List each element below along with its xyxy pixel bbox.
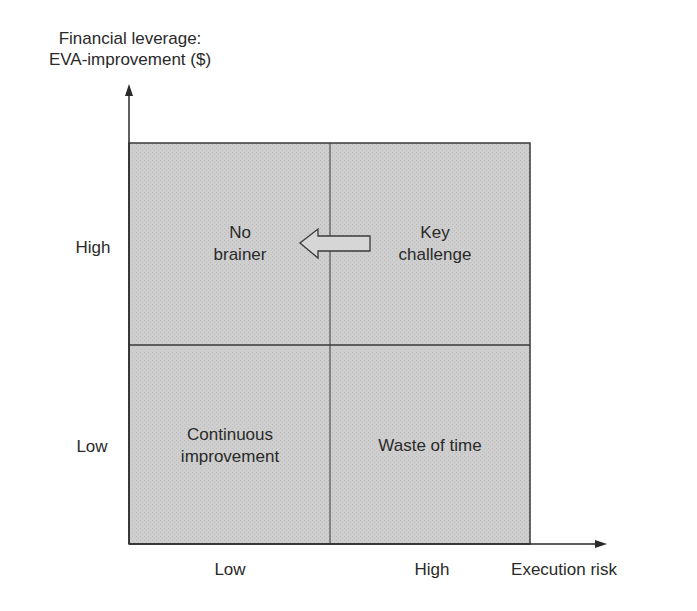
y-axis-title: Financial leverage: EVA-improvement ($) (25, 28, 235, 70)
quadrant-no-brainer: No brainer (200, 222, 280, 266)
y-axis-arrowhead-icon (125, 84, 133, 96)
x-tick-low: Low (205, 559, 255, 580)
quadrant-key-challenge: Key challenge (380, 222, 490, 266)
x-axis-title: Execution risk (464, 559, 664, 580)
quadrant-waste-of-time: Waste of time (360, 435, 500, 457)
x-axis-arrowhead-icon (595, 540, 607, 548)
quadrant-continuous-improvement: Continuous improvement (165, 424, 295, 468)
quadrant-key-challenge-line1: Key (380, 222, 490, 244)
y-axis-title-line2: EVA-improvement ($) (25, 49, 235, 70)
y-tick-low: Low (70, 436, 114, 457)
y-tick-high: High (68, 237, 118, 258)
quadrant-key-challenge-line2: challenge (380, 244, 490, 266)
x-tick-high: High (407, 559, 457, 580)
quadrant-continuous-improvement-line2: improvement (165, 446, 295, 468)
quadrant-no-brainer-line2: brainer (200, 244, 280, 266)
quadrant-no-brainer-line1: No (200, 222, 280, 244)
matrix-diagram (0, 0, 697, 611)
y-axis-title-line1: Financial leverage: (25, 28, 235, 49)
quadrant-continuous-improvement-line1: Continuous (165, 424, 295, 446)
quadrant-waste-of-time-line1: Waste of time (360, 435, 500, 457)
